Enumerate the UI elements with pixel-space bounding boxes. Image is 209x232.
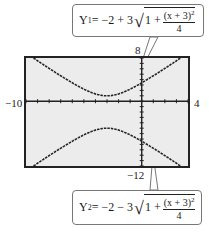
y1-den: 4 [177, 23, 182, 34]
sqrt-icon: √ [134, 15, 144, 27]
y2-lhs: Y [79, 200, 88, 215]
y1-equation-callout: Y1 = −2 + 3 √ 1 + (x + 3)24 [72, 4, 204, 37]
sqrt-icon: √ [134, 202, 144, 214]
y2-num: (x + 3) [164, 198, 191, 209]
calculator-screen [25, 57, 189, 167]
y1-rhs: = −2 + 3 [92, 13, 133, 28]
x-min-label: −10 [5, 97, 22, 109]
y2-equation-callout: Y2 = −2 − 3 √ 1 + (x + 3)24 [72, 190, 202, 225]
x-max-label: 4 [194, 97, 200, 109]
y1-pow: 2 [191, 9, 195, 17]
y1-num: (x + 3) [164, 11, 191, 22]
y2-rhs: = −2 − 3 [92, 200, 133, 215]
y2-pow: 2 [191, 196, 195, 204]
y-max-label: 8 [135, 44, 141, 56]
y1-lhs: Y [79, 13, 88, 28]
y2-rad: 1 + [145, 200, 161, 215]
y-min-label: −12 [127, 169, 144, 181]
y2-den: 4 [177, 210, 182, 221]
y1-rad: 1 + [145, 13, 161, 28]
